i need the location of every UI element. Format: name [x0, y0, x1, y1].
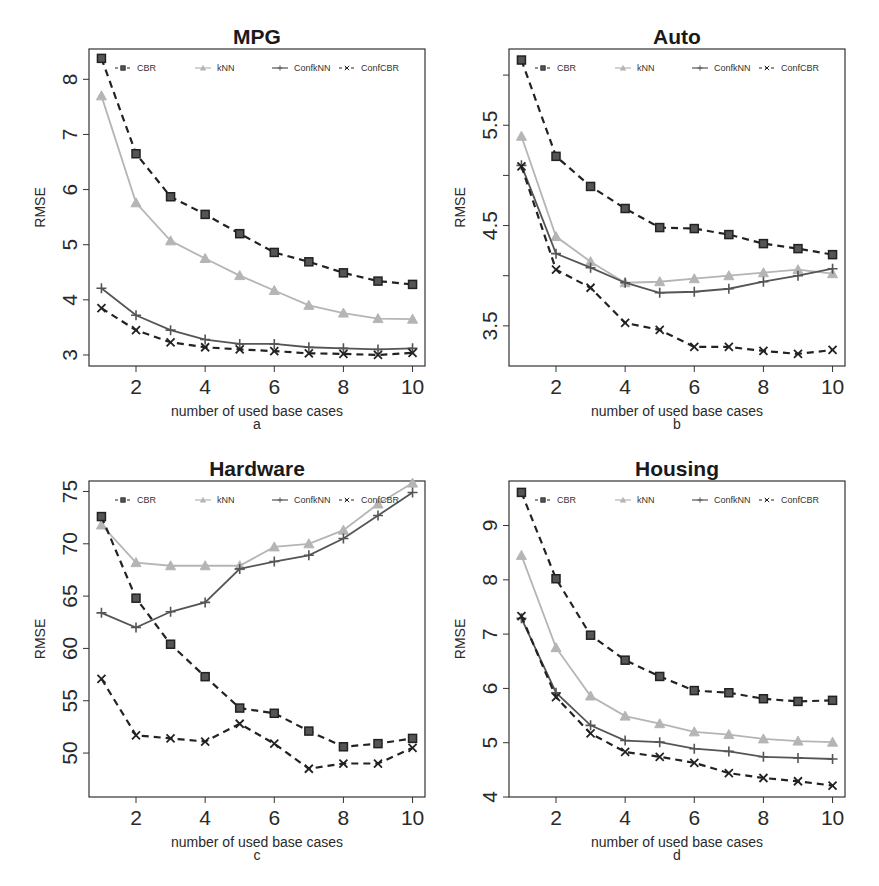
series-knn: [96, 478, 417, 570]
x-tick-label: 10: [821, 806, 844, 829]
panel-label: b: [673, 416, 681, 432]
series-cbr: [97, 54, 416, 288]
x-tick-label: 4: [199, 375, 211, 398]
chart-title: Hardware: [209, 457, 305, 480]
legend-item-cbr: CBR: [137, 495, 157, 505]
x-tick-label: 10: [401, 806, 424, 829]
x-tick-label: 8: [758, 806, 770, 829]
legend-item-knn: kNN: [637, 495, 655, 505]
x-tick-label: 2: [550, 806, 562, 829]
legend-item-confcbr: ConfCBR: [781, 495, 820, 505]
chart-svg: Hardware246810505560657075number of used…: [0, 440, 440, 883]
y-axis-label: RMSE: [452, 187, 468, 227]
y-tick-label: 6: [478, 683, 501, 695]
legend-item-confknn: ConfkNN: [714, 63, 751, 73]
series-confknn: [96, 488, 417, 633]
y-tick-label: 3.5: [478, 311, 501, 340]
series-cbr: [517, 56, 836, 259]
chart-panel-auto: Auto2468103.54.55.5number of used base c…: [440, 0, 879, 443]
x-tick-label: 8: [758, 375, 770, 398]
y-tick-label: 4: [58, 294, 81, 306]
x-tick-label: 2: [130, 375, 142, 398]
y-tick-label: 7: [478, 628, 501, 640]
legend: CBRkNNConfkNNConfCBR: [535, 63, 820, 73]
x-tick-label: 6: [268, 375, 280, 398]
chart-title: Housing: [635, 457, 719, 480]
y-tick-label: 75: [58, 480, 81, 503]
y-tick-label: 70: [58, 532, 81, 555]
x-tick-label: 4: [619, 375, 631, 398]
y-axis-label: RMSE: [452, 619, 468, 659]
series-cbr: [517, 488, 836, 705]
y-tick-label: 5: [478, 737, 501, 749]
chart-svg: MPG246810345678number of used base cases…: [0, 0, 440, 443]
x-tick-label: 6: [688, 375, 700, 398]
series-cbr: [97, 513, 416, 751]
x-tick-label: 8: [338, 375, 350, 398]
x-tick-label: 2: [130, 806, 142, 829]
y-tick-label: 50: [58, 741, 81, 764]
y-tick-label: 65: [58, 584, 81, 607]
y-tick-label: 9: [478, 520, 501, 532]
x-tick-label: 10: [401, 375, 424, 398]
series-confcbr: [97, 675, 416, 773]
y-tick-label: 6: [58, 184, 81, 196]
series-confcbr: [517, 162, 836, 358]
legend-item-confcbr: ConfCBR: [781, 63, 820, 73]
legend-item-confknn: ConfkNN: [714, 495, 751, 505]
y-tick-label: 4.5: [478, 211, 501, 240]
chart-panel-housing: Housing246810456789number of used base c…: [440, 440, 879, 883]
x-tick-label: 8: [338, 806, 350, 829]
legend-item-knn: kNN: [217, 63, 235, 73]
plot-frame: [509, 481, 845, 797]
panel-label: c: [254, 847, 261, 863]
plot-frame: [89, 481, 425, 797]
legend-item-confcbr: ConfCBR: [361, 495, 400, 505]
y-axis-label: RMSE: [32, 619, 48, 659]
legend: CBRkNNConfkNNConfCBR: [115, 63, 400, 73]
panel-label: a: [253, 416, 261, 432]
y-tick-label: 8: [478, 574, 501, 586]
y-tick-label: 3: [58, 349, 81, 361]
legend: CBRkNNConfkNNConfCBR: [535, 495, 820, 505]
chart-svg: Auto2468103.54.55.5number of used base c…: [440, 0, 879, 443]
legend-item-cbr: CBR: [557, 495, 577, 505]
series-confknn: [96, 283, 417, 354]
legend-item-confcbr: ConfCBR: [361, 63, 400, 73]
legend-item-cbr: CBR: [557, 63, 577, 73]
y-axis-label: RMSE: [32, 187, 48, 227]
y-tick-label: 8: [58, 73, 81, 85]
x-tick-label: 2: [550, 375, 562, 398]
x-tick-label: 6: [688, 806, 700, 829]
y-tick-label: 60: [58, 637, 81, 660]
series-confcbr: [97, 304, 416, 359]
chart-svg: Housing246810456789number of used base c…: [440, 440, 879, 883]
y-tick-label: 7: [58, 129, 81, 141]
legend-item-cbr: CBR: [137, 63, 157, 73]
legend: CBRkNNConfkNNConfCBR: [115, 495, 400, 505]
y-tick-label: 5.5: [478, 111, 501, 140]
legend-item-knn: kNN: [217, 495, 235, 505]
series-knn: [516, 131, 837, 286]
x-tick-label: 10: [821, 375, 844, 398]
x-tick-label: 6: [268, 806, 280, 829]
chart-title: Auto: [653, 25, 701, 48]
chart-title: MPG: [233, 25, 281, 48]
y-tick-label: 4: [478, 791, 501, 803]
y-tick-label: 55: [58, 689, 81, 712]
legend-item-confknn: ConfkNN: [294, 495, 331, 505]
panel-label: d: [673, 847, 681, 863]
legend-item-confknn: ConfkNN: [294, 63, 331, 73]
chart-panel-hardware: Hardware246810505560657075number of used…: [0, 440, 440, 883]
x-tick-label: 4: [199, 806, 211, 829]
plot-frame: [509, 49, 845, 366]
chart-panel-mpg: MPG246810345678number of used base cases…: [0, 0, 440, 443]
legend-item-knn: kNN: [637, 63, 655, 73]
series-knn: [516, 550, 837, 746]
x-tick-label: 4: [619, 806, 631, 829]
y-tick-label: 5: [58, 239, 81, 251]
series-knn: [96, 91, 417, 323]
